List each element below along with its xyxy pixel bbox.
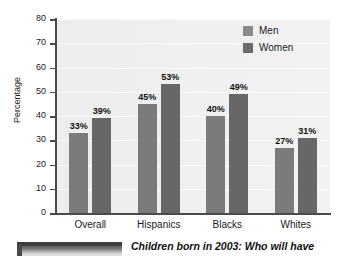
legend-swatch-men-icon [243, 26, 253, 36]
y-axis-tick-label-wrap: 40 [20, 111, 46, 121]
y-axis-tick-label: 30 [22, 135, 46, 144]
y-axis-tick-label-wrap: 10 [20, 184, 46, 194]
slab-top-edge [17, 242, 122, 246]
bar-hispanics-men [138, 104, 157, 213]
y-axis-tick-label-wrap: 60 [20, 63, 46, 73]
y-axis-tick-label-wrap: 70 [20, 38, 46, 48]
y-axis-tick [50, 165, 55, 167]
bar-value-label: 53% [157, 72, 183, 82]
y-axis-tick-label: 70 [22, 38, 46, 47]
bar-overall-men [69, 133, 88, 213]
y-axis-tick-label: 40 [22, 111, 46, 120]
y-axis-tick [50, 43, 55, 45]
x-axis-tick-label: Hispanics [124, 219, 194, 230]
bar-overall-women [92, 118, 111, 213]
bar-whites-women [298, 138, 317, 213]
legend-item-women: Women [243, 39, 293, 56]
x-axis-tick-label: Overall [55, 219, 125, 230]
bar-value-label: 45% [134, 92, 160, 102]
bar-value-label: 27% [271, 136, 297, 146]
legend-label-men: Men [259, 25, 278, 36]
y-axis-tick [50, 116, 55, 118]
slab-left-edge [17, 244, 22, 256]
y-axis-tick [50, 19, 55, 21]
slab-body [17, 245, 122, 256]
figure-caption: Children born in 2003: Who will have [131, 240, 314, 252]
y-axis-tick-label: 60 [22, 63, 46, 72]
y-axis-tick-label-wrap: 0 [20, 208, 46, 218]
gridline [56, 19, 330, 20]
bar-value-label: 49% [226, 82, 252, 92]
y-axis-tick-label: 50 [22, 87, 46, 96]
y-axis-tick-label-wrap: 80 [20, 14, 46, 24]
y-axis-tick [50, 189, 55, 191]
y-axis-tick-label: 80 [22, 14, 46, 23]
legend-label-women: Women [259, 42, 293, 53]
chart-legend: Men Women [243, 22, 293, 56]
bar-value-label: 39% [89, 106, 115, 116]
gridline [56, 92, 330, 93]
y-axis-tick-label-wrap: 50 [20, 87, 46, 97]
bar-value-label: 31% [294, 126, 320, 136]
y-axis-tick-label-wrap: 20 [20, 160, 46, 170]
x-axis-tick-label: Blacks [192, 219, 262, 230]
y-axis-tick [50, 92, 55, 94]
y-axis-tick [50, 68, 55, 70]
y-axis-tick-label-wrap: 30 [20, 135, 46, 145]
x-axis-tick-label: Whites [261, 219, 331, 230]
bar-value-label: 33% [66, 121, 92, 131]
bar-value-label: 40% [203, 104, 229, 114]
bar-blacks-women [229, 94, 248, 213]
gridline [56, 68, 330, 69]
bar-hispanics-women [161, 84, 180, 213]
bar-chart-figure: Percentage 33%39%45%53%40%49%27%31% Men … [0, 0, 345, 258]
legend-swatch-women-icon [243, 43, 253, 53]
y-axis-tick-label: 10 [22, 184, 46, 193]
bar-whites-men [275, 148, 294, 213]
y-axis-tick-label: 0 [22, 208, 46, 217]
y-axis-tick-label: 20 [22, 160, 46, 169]
bar-blacks-men [206, 116, 225, 213]
decorative-slab-graphic [17, 242, 122, 256]
legend-item-men: Men [243, 22, 293, 39]
y-axis-tick [50, 213, 55, 215]
x-axis-line [55, 213, 331, 215]
y-axis-line [55, 18, 57, 214]
y-axis-tick [50, 140, 55, 142]
